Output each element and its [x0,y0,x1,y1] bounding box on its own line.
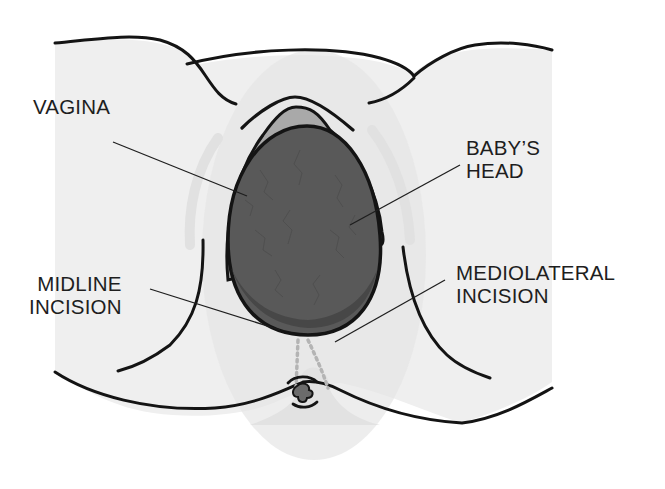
label-vagina-line-1: VAGINA [33,95,110,118]
label-midline-incision: MIDLINE INCISION [29,272,122,318]
label-midline-line-2: INCISION [29,295,122,318]
label-babys-head: BABY’S HEAD [466,136,540,182]
episiotomy-diagram [0,0,665,489]
label-babys-head-line-1: BABY’S [466,136,540,159]
label-mediolateral-line-1: MEDIOLATERAL [456,261,615,284]
label-mediolateral-line-2: INCISION [456,284,615,307]
label-vagina: VAGINA [33,95,110,118]
label-midline-line-1: MIDLINE [29,272,122,295]
label-mediolateral-incision: MEDIOLATERAL INCISION [456,261,615,307]
label-babys-head-line-2: HEAD [466,159,540,182]
